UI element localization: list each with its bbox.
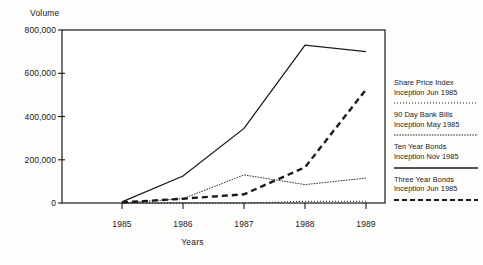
- chart-svg: [0, 0, 400, 230]
- y-tick-label: 600,000: [0, 68, 56, 78]
- legend-label-line1: Ten Year Bonds: [394, 142, 482, 152]
- x-tick-label: 1989: [346, 219, 386, 229]
- legend-entry-90-day-bank-bills: 90 Day Bank Bills Inception May 1985: [394, 110, 482, 137]
- legend-label-line2: Inception Jun 1985: [394, 184, 482, 194]
- x-tick-label: 1987: [224, 219, 264, 229]
- legend-label-line2: Inception Jun 1985: [394, 88, 482, 98]
- chart-page: Volume: [0, 0, 483, 265]
- legend-entry-three-year-bonds: Three Year Bonds Inception Jun 1985: [394, 175, 482, 202]
- y-tick-label: 0: [0, 198, 56, 208]
- plot-area: 800,000 600,000 400,000 200,000 0 1985 1…: [0, 0, 400, 230]
- y-tick-label: 800,000: [0, 25, 56, 35]
- legend-entry-ten-year-bonds: Ten Year Bonds Inception Nov 1985: [394, 142, 482, 169]
- legend-label-line1: Share Price Index: [394, 78, 482, 88]
- legend-sample-fine-dotted-icon: [394, 101, 478, 105]
- plot-frame: [62, 30, 385, 203]
- chart-legend: Share Price Index Inception Jun 1985 90 …: [394, 78, 482, 207]
- legend-label-line1: Three Year Bonds: [394, 175, 482, 185]
- legend-sample-thin-dotted-icon: [394, 133, 478, 137]
- x-tick-label: 1986: [163, 219, 203, 229]
- legend-sample-thick-dashed-icon: [394, 198, 478, 202]
- legend-entry-share-price-index: Share Price Index Inception Jun 1985: [394, 78, 482, 105]
- legend-sample-solid-icon: [394, 166, 478, 170]
- legend-label-line1: 90 Day Bank Bills: [394, 110, 482, 120]
- y-tick-label: 200,000: [0, 155, 56, 165]
- y-tick-label: 400,000: [0, 112, 56, 122]
- legend-label-line2: Inception Nov 1985: [394, 152, 482, 162]
- x-tick-label: 1985: [102, 219, 142, 229]
- x-axis-ticks: [122, 203, 366, 209]
- legend-label-line2: Inception May 1985: [394, 120, 482, 130]
- x-axis-title: Years: [0, 237, 385, 247]
- x-tick-label: 1988: [285, 219, 325, 229]
